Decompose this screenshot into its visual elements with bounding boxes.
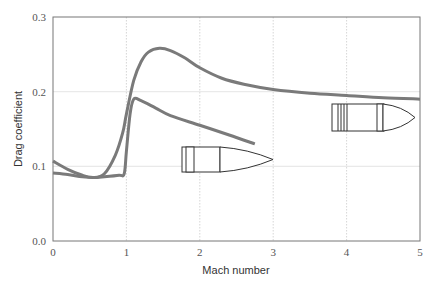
drag-chart: 012345 0.00.10.20.3 Mach number Drag coe… [0,0,438,282]
y-tick-label: 0.3 [32,11,46,23]
y-tick-label: 0.2 [32,86,46,98]
y-axis-ticks: 0.00.10.20.3 [32,11,46,247]
x-tick-label: 0 [50,246,56,258]
x-tick-label: 3 [270,246,276,258]
x-axis-label: Mach number [202,264,270,276]
y-tick-label: 0.1 [32,160,46,172]
grid [126,17,346,241]
y-axis-label: Drag coefficient [12,91,24,167]
x-tick-label: 5 [417,246,423,258]
x-tick-label: 4 [344,246,350,258]
flat-base-bullet-icon [182,147,273,172]
x-tick-label: 1 [124,246,130,258]
boat-tail-bullet-icon [332,104,415,131]
x-axis-ticks: 012345 [50,246,423,258]
y-tick-label: 0.0 [32,235,46,247]
x-tick-label: 2 [197,246,203,258]
